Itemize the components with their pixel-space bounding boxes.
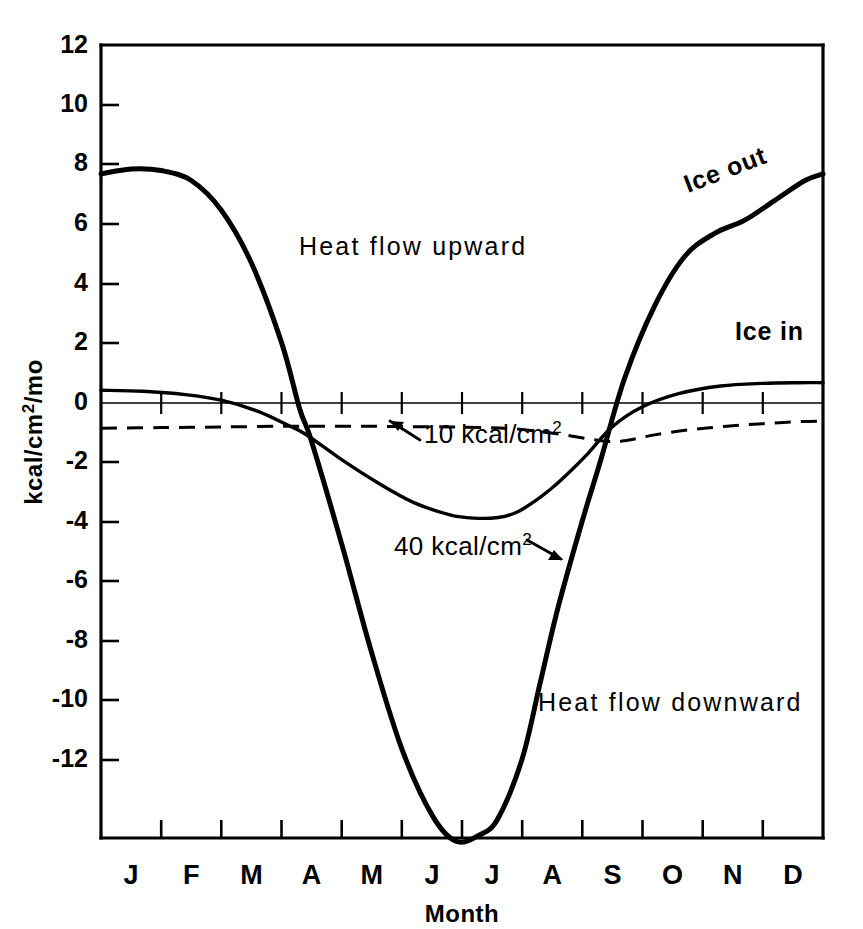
annotation-10-kcal-sup: 2 [552,418,562,437]
annotation-40-kcal: 40 kcal/cm2 [394,530,532,561]
y-axis-ticks [101,105,119,760]
data-series-group [101,169,823,843]
y-tick-label: 2 [74,327,88,355]
x-axis-title: Month [425,900,499,927]
y-tick-label: 10 [60,89,88,117]
annotation-heat-flow-upward: Heat flow upward [299,232,527,260]
month-label: N [723,860,743,890]
annotation-40-kcal-sup: 2 [522,530,532,549]
month-label: A [302,860,322,890]
chart-svg: 12 10 8 6 4 2 0 -2 -4 -6 -8 -10 -12 kcal… [0,0,863,929]
month-label: J [485,860,500,890]
y-tick-label: 6 [74,208,88,236]
annotation-40-kcal-text: 40 kcal/cm [394,531,522,561]
y-tick-label: 4 [74,268,88,296]
annotation-10-kcal-text: 10 kcal/cm [424,419,552,449]
y-axis-title-text: kcal/cm [20,413,47,505]
y-tick-label: 0 [74,387,88,415]
x-axis-month-labels: J F M A M J J A S O N D [124,860,803,890]
y-tick-label: 8 [74,148,88,176]
month-label: A [543,860,563,890]
month-label: M [240,860,263,890]
month-label: O [662,860,683,890]
y-axis-title: kcal/cm2/mo [19,359,47,505]
y-tick-label: -2 [66,446,88,474]
month-label: F [183,860,200,890]
y-axis-tick-labels: 12 10 8 6 4 2 0 -2 -4 -6 -8 -10 -12 [52,30,88,772]
svg-text:kcal/cm2/mo: kcal/cm2/mo [19,359,47,505]
month-label: S [603,860,621,890]
month-label: M [361,860,384,890]
y-tick-label: -4 [66,506,88,534]
y-tick-label: 12 [60,30,88,58]
y-tick-label: -12 [52,744,88,772]
chart-figure: 12 10 8 6 4 2 0 -2 -4 -6 -8 -10 -12 kcal… [0,0,863,929]
month-label: J [124,860,139,890]
y-tick-label: -6 [66,565,88,593]
annotation-10-kcal: 10 kcal/cm2 [424,418,562,449]
y-tick-label: -8 [66,625,88,653]
month-label: J [424,860,439,890]
annotation-ice-in: Ice in [735,317,804,345]
series-40-kcal [101,169,823,843]
annotation-heat-flow-downward: Heat flow downward [538,688,803,716]
y-tick-label: -10 [52,684,88,712]
month-label: D [783,860,803,890]
x-axis-ticks [161,820,763,838]
annotation-ice-out: Ice out [680,141,770,198]
